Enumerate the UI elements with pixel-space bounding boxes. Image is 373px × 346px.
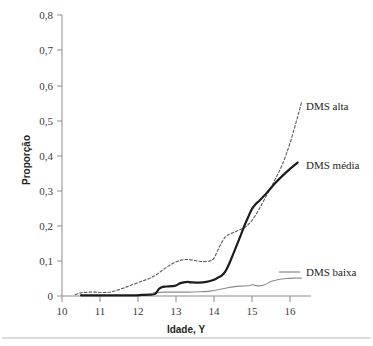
x-tick-label-10: 10 [57,305,69,317]
x-tick-label-16: 16 [285,305,297,317]
x-axis: 10 11 12 13 14 15 16 [57,296,312,317]
y-tick-label-0.4: 0,4 [39,150,53,162]
series-label-dms-media: DMS média [306,159,360,171]
x-tick-label-14: 14 [209,305,221,317]
x-axis-title: Idade, Y [167,324,205,335]
series-line-dms-alta [75,103,301,295]
y-tick-label-0.7: 0,7 [39,44,53,56]
y-tick-label-0.3: 0,3 [39,185,53,197]
series-label-group-dms-media: DMS média [306,159,360,171]
y-tick-label-0.1: 0,1 [39,255,53,267]
y-tick-label-0.6: 0,6 [39,80,53,92]
chart-figure: 0,8 0,7 0,6 0,5 0,4 0,3 0,2 0,1 0 10 11 … [0,0,373,346]
y-tick-label-0.8: 0,8 [39,9,53,21]
series-label-group-dms-alta: DMS alta [306,100,349,112]
y-tick-label-0.5: 0,5 [39,115,53,127]
y-axis-title: Proporção [21,135,32,185]
series-label-dms-baixa: DMS baixa [306,266,357,278]
y-axis: 0,8 0,7 0,6 0,5 0,4 0,3 0,2 0,1 0 [39,9,62,302]
x-tick-label-12: 12 [133,305,144,317]
x-tick-label-11: 11 [95,305,106,317]
line-chart: 0,8 0,7 0,6 0,5 0,4 0,3 0,2 0,1 0 10 11 … [0,0,373,346]
series-line-dms-media [81,163,298,296]
y-tick-label-0.2: 0,2 [39,220,53,232]
series-label-dms-alta: DMS alta [306,100,349,112]
series-label-group-dms-baixa: DMS baixa [279,266,357,278]
x-tick-label-15: 15 [247,305,259,317]
x-tick-label-13: 13 [171,305,183,317]
y-tick-label-0: 0 [48,290,54,302]
